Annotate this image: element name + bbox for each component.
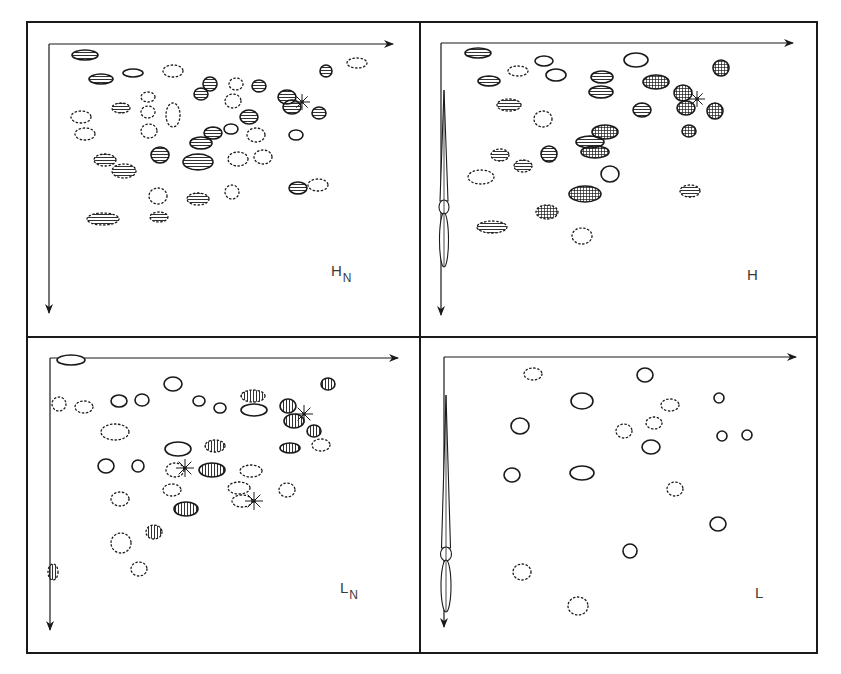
spot-dotted (667, 482, 683, 496)
spot-hstripe (589, 86, 613, 98)
spot-dotted (568, 597, 588, 615)
two-dimensional-spot-map-figure: HN H LN L (0, 0, 841, 674)
spot-dotted (572, 228, 592, 244)
spot-dotted (71, 111, 91, 123)
spot-dotted (308, 179, 328, 191)
spot-solid (710, 517, 726, 531)
spot-vstripe-dotted (205, 440, 225, 452)
spot-hstripe (72, 50, 98, 60)
spot-hstripe (478, 76, 500, 86)
spot-hstripe (320, 65, 332, 77)
spot-dotted (166, 103, 180, 127)
spot-dotted (229, 78, 243, 90)
panel-label-subscript: N (343, 271, 352, 285)
spot-dotted (534, 111, 552, 127)
spot-dotted (646, 417, 662, 429)
panel-ln: LN (48, 355, 398, 630)
spot-solid (98, 459, 114, 473)
spot-hstripe (541, 146, 557, 162)
spot-vstripe (280, 443, 300, 453)
spot-dotted (254, 150, 272, 164)
panel-label-main: H (747, 266, 758, 283)
spot-solid (717, 431, 727, 441)
spot-dotted (279, 483, 295, 497)
spot-dotted (111, 533, 131, 553)
spot-solid (214, 403, 226, 413)
spot-dotted (513, 564, 531, 580)
spot-hstripe-dotted (680, 185, 700, 197)
spot-solid (642, 440, 660, 454)
spot-dotted (166, 463, 184, 477)
spot-dotted (149, 188, 167, 204)
panel-label-subscript: N (349, 588, 358, 602)
panel-label: H (747, 266, 758, 283)
spot-grid (569, 186, 601, 202)
panel-label-main: L (340, 579, 348, 596)
spot-dotted (111, 492, 129, 506)
spot-dotted (75, 128, 95, 140)
spot-dotted (508, 66, 528, 76)
asterisk-marker (176, 459, 194, 477)
spot-dotted (141, 106, 155, 118)
spot-hstripe-dotted (477, 221, 507, 233)
spot-hstripe (252, 80, 266, 92)
axis-streak (441, 395, 452, 612)
spot-dotted (616, 424, 632, 438)
spot-hstripe (89, 74, 113, 84)
spot-solid (289, 130, 303, 140)
spot-solid (714, 393, 724, 403)
spot-hstripe-dotted (94, 154, 116, 166)
spot-hstripe-dotted (150, 212, 168, 222)
spot-solid (535, 56, 553, 66)
spot-solid (624, 53, 648, 67)
spot-solid (165, 442, 191, 456)
spot-dotted (661, 399, 679, 411)
spot-vstripe-dotted (241, 390, 265, 402)
spot-hstripe (190, 137, 212, 149)
spot-dotted (228, 482, 250, 494)
spot-solid (637, 368, 653, 382)
spot-solid (511, 418, 529, 434)
spot-hstripe-dotted (497, 99, 521, 111)
spot-solid (504, 468, 520, 482)
spot-solid (546, 69, 566, 81)
spot-solid (570, 466, 594, 480)
spot-dotted (225, 94, 241, 108)
spot-hstripe (289, 182, 307, 194)
spot-hstripe (240, 110, 258, 124)
spot-hstripe-dotted (112, 164, 136, 178)
spot-hstripe (151, 147, 169, 163)
spot-dotted (240, 465, 262, 477)
spot-solid (224, 124, 238, 134)
spot-hstripe-dotted (112, 103, 130, 113)
spot-solid (57, 355, 85, 365)
panel-h: H (439, 43, 793, 315)
spot-solid (742, 430, 752, 440)
spot-dotted (75, 401, 93, 413)
spot-vstripe (174, 502, 198, 516)
spot-hstripe-dotted (491, 149, 509, 161)
spot-solid (123, 69, 143, 77)
asterisk-marker (294, 94, 310, 110)
spot-dotted (101, 424, 129, 440)
spot-dotted (163, 65, 183, 77)
spot-hstripe-dotted (87, 213, 119, 225)
spot-hstripe (591, 71, 613, 83)
spot-vstripe (280, 399, 296, 413)
spot-grid (682, 125, 696, 137)
panel-label: L (755, 584, 763, 601)
spot-solid (241, 404, 267, 416)
spot-vstripe (284, 414, 304, 428)
panel-label-main: H (331, 262, 342, 279)
spot-solid (193, 396, 205, 406)
spot-vstripe-dotted (146, 525, 162, 539)
spot-dotted (468, 170, 494, 184)
spot-hstripe (633, 103, 651, 117)
spot-solid (111, 395, 127, 407)
spot-hstripe-dotted (514, 160, 532, 172)
spot-vstripe (199, 463, 225, 477)
spot-solid (601, 166, 619, 182)
asterisk-marker (689, 91, 705, 107)
spot-hstripe (194, 88, 208, 100)
panel-label: LN (340, 579, 358, 602)
